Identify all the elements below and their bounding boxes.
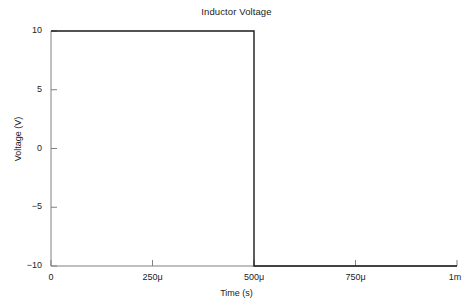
x-axis-label: Time (s) (0, 288, 473, 298)
y-tick-label-minus5: −5 (8, 201, 42, 211)
x-tick-label-750u: 750μ (326, 272, 386, 282)
x-tick-label-500u: 500μ (224, 272, 284, 282)
x-tick-label-250u: 250μ (123, 272, 183, 282)
y-tick-label-10: 10 (8, 25, 42, 35)
y-axis-label-wrapper: Voltage (V) (7, 99, 25, 179)
y-tick-label-minus10: −10 (8, 260, 42, 270)
y-tick-label-5: 5 (8, 84, 42, 94)
plot-canvas (0, 0, 473, 308)
y-axis-label: Voltage (V) (13, 117, 23, 162)
x-tick-label-1m: 1m (425, 272, 473, 282)
series-line-inductor-voltage (51, 31, 457, 266)
x-tick-label-0: 0 (21, 272, 81, 282)
chart-figure: Inductor Voltage 10 5 0 −5 −10 0 250μ 50… (0, 0, 473, 308)
